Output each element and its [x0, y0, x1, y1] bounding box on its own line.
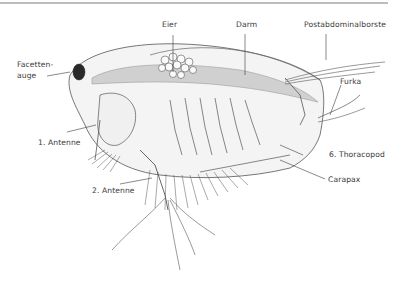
label-thoracopod-6: 6. Thoracopod	[329, 151, 385, 159]
label-facettenauge-line1: Facetten-	[17, 61, 53, 69]
label-carapax: Carapax	[328, 176, 360, 184]
label-antenne-2: 2. Antenne	[92, 187, 135, 195]
label-postabdominalborste: Postabdominalborste	[304, 21, 386, 29]
furca	[318, 95, 360, 118]
compound-eye	[73, 64, 85, 80]
label-eier: Eier	[162, 21, 177, 29]
label-antenne-1: 1. Antenne	[38, 139, 81, 147]
label-facettenauge-line2: auge	[17, 72, 36, 80]
label-darm: Darm	[236, 21, 257, 29]
label-furka: Furka	[340, 78, 361, 86]
